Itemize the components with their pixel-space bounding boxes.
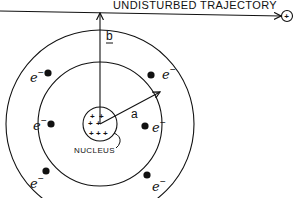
projectile-symbol: +	[284, 12, 289, 21]
nucleus-charge: +	[103, 129, 108, 138]
svg-text:e: e	[162, 67, 170, 82]
svg-text:e: e	[30, 70, 38, 85]
electron-outer-top-right: e −	[147, 64, 176, 82]
nucleus-charge: +	[88, 119, 93, 128]
electron-outer-top-left: e −	[30, 67, 52, 85]
electron-outer-bottom-left: e −	[30, 167, 50, 191]
svg-text:−: −	[170, 64, 176, 75]
svg-text:e: e	[152, 179, 160, 194]
svg-text:−: −	[38, 173, 44, 184]
atomic-radius-arrow	[100, 92, 160, 124]
trajectory-line	[0, 11, 281, 16]
electron-inner-left: e −	[33, 115, 55, 133]
svg-text:e: e	[152, 120, 160, 135]
svg-text:−: −	[38, 67, 44, 78]
nucleus-label: NUCLEUS	[74, 146, 115, 155]
electron-outer-bottom-right: e −	[143, 171, 166, 194]
nucleus-charges: + + + + + + +	[88, 112, 108, 138]
atom-diagram: UNDISTURBED TRAJECTORY + + + + + + + + b…	[0, 0, 295, 198]
svg-text:−: −	[160, 176, 166, 187]
nucleus-charge: +	[89, 129, 94, 138]
svg-text:e: e	[33, 118, 41, 133]
svg-text:−: −	[160, 117, 166, 128]
projectile-icon: +	[282, 11, 293, 22]
svg-text:−: −	[41, 115, 47, 126]
trajectory-label: UNDISTURBED TRAJECTORY	[113, 0, 277, 11]
atomic-radius-label: a	[131, 107, 138, 121]
impact-parameter-label: b	[106, 29, 113, 43]
svg-text:e: e	[30, 176, 38, 191]
nucleus-charge: +	[96, 129, 101, 138]
electron-inner-right: e −	[141, 117, 166, 135]
